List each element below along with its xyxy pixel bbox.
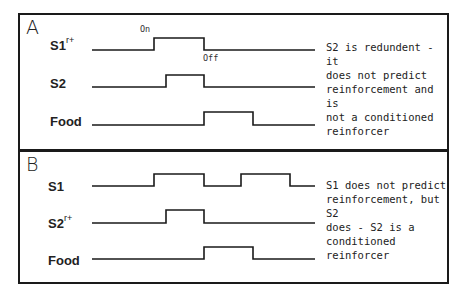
waveform-b-food bbox=[92, 247, 315, 259]
waveform-a-s1 bbox=[92, 38, 315, 50]
waveform-layer bbox=[0, 0, 466, 297]
waveform-b-s2 bbox=[92, 210, 315, 223]
waveform-a-s2 bbox=[92, 75, 315, 87]
waveform-a-food bbox=[92, 112, 315, 125]
waveform-b-s1 bbox=[92, 174, 315, 186]
